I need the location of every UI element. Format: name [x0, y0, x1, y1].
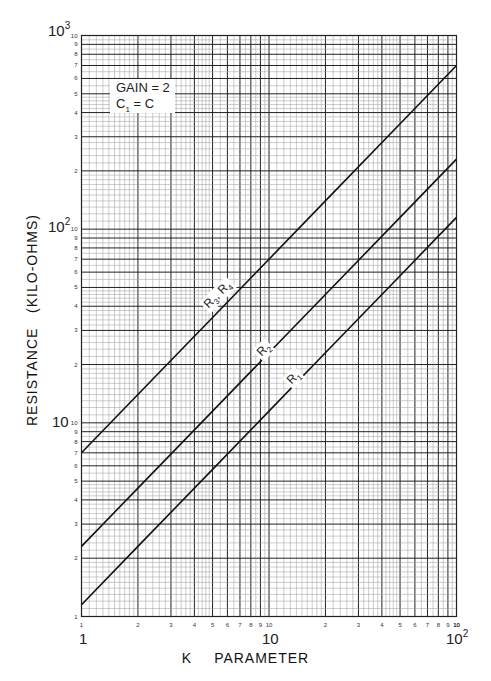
annotation-box: GAIN = 2 C1 = C — [110, 79, 175, 113]
x-axis-title-parameter: PARAMETER — [214, 650, 309, 666]
svg-text:1: 1 — [80, 622, 84, 628]
svg-text:10: 10 — [71, 420, 78, 426]
y-axis-title: RESISTANCE (KILO-OHMS) — [24, 214, 40, 426]
svg-text:4: 4 — [74, 497, 78, 503]
svg-text:8: 8 — [74, 51, 78, 57]
chart-canvas: 1234567892345678910101012345678910234567… — [0, 0, 491, 681]
svg-text:10: 10 — [266, 622, 273, 628]
svg-text:5: 5 — [74, 284, 78, 290]
x-decade-base: 10 — [446, 630, 463, 647]
svg-text:3: 3 — [169, 622, 173, 628]
x-axis-title-k: K — [182, 650, 192, 666]
svg-text:4: 4 — [74, 303, 78, 309]
x-decade-label-100: 102 — [446, 628, 468, 647]
svg-text:3: 3 — [74, 521, 78, 527]
svg-text:5: 5 — [211, 622, 215, 628]
svg-text:4: 4 — [74, 110, 78, 116]
svg-text:4: 4 — [193, 622, 197, 628]
svg-text:6: 6 — [74, 463, 78, 469]
svg-text:7: 7 — [74, 450, 78, 456]
svg-text:7: 7 — [74, 256, 78, 262]
x-decade-exp: 2 — [463, 628, 469, 639]
x-decade-label-10: 10 — [262, 630, 279, 647]
svg-text:7: 7 — [238, 622, 242, 628]
y-decade-exp: 3 — [65, 20, 71, 31]
svg-text:10: 10 — [71, 226, 78, 232]
svg-text:5: 5 — [74, 478, 78, 484]
x-axis-title: KPARAMETER — [0, 650, 491, 666]
y-decade-base: 10 — [48, 218, 65, 235]
annotation-c: C — [116, 96, 125, 111]
svg-text:2: 2 — [74, 362, 78, 368]
svg-text:9: 9 — [74, 235, 78, 241]
svg-text:6: 6 — [413, 622, 417, 628]
annotation-rest: = C — [130, 96, 154, 111]
svg-text:5: 5 — [74, 91, 78, 97]
svg-text:6: 6 — [226, 622, 230, 628]
annotation-gain: GAIN = 2 — [116, 80, 175, 96]
y-decade-base: 10 — [48, 22, 65, 39]
svg-text:3: 3 — [74, 134, 78, 140]
svg-text:2: 2 — [74, 555, 78, 561]
svg-text:6: 6 — [74, 75, 78, 81]
svg-text:4: 4 — [380, 622, 384, 628]
y-decade-label-10: 10 — [52, 413, 69, 430]
svg-text:2: 2 — [74, 168, 78, 174]
svg-text:3: 3 — [74, 327, 78, 333]
y-decade-exp: 2 — [65, 216, 71, 227]
svg-text:6: 6 — [74, 269, 78, 275]
svg-text:8: 8 — [249, 622, 253, 628]
svg-text:1: 1 — [74, 614, 78, 620]
svg-text:8: 8 — [437, 622, 441, 628]
y-decade-label-100: 102 — [48, 216, 70, 235]
svg-text:8: 8 — [74, 245, 78, 251]
svg-text:2: 2 — [136, 622, 140, 628]
svg-text:10: 10 — [453, 622, 460, 628]
svg-text:5: 5 — [398, 622, 402, 628]
svg-text:7: 7 — [74, 62, 78, 68]
annotation-capacitor: C1 = C — [116, 96, 175, 118]
svg-text:3: 3 — [357, 622, 361, 628]
svg-text:9: 9 — [74, 429, 78, 435]
x-decade-label-1: 1 — [79, 630, 87, 647]
svg-text:9: 9 — [259, 622, 263, 628]
y-decade-label-1000: 103 — [48, 20, 70, 39]
svg-text:9: 9 — [446, 622, 450, 628]
svg-text:9: 9 — [74, 41, 78, 47]
svg-text:8: 8 — [74, 439, 78, 445]
svg-text:2: 2 — [324, 622, 328, 628]
svg-text:7: 7 — [426, 622, 430, 628]
svg-text:10: 10 — [71, 33, 78, 39]
